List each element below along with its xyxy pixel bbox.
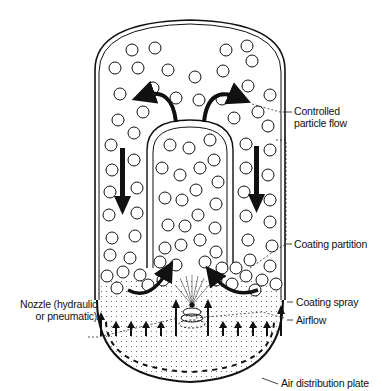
- label-line-2: particle flow: [294, 117, 347, 129]
- label-controlled-particle-flow: Controlled particle flow: [294, 105, 347, 129]
- label-line-1: Controlled: [294, 105, 347, 117]
- label-coating-partition: Coating partition: [294, 238, 367, 250]
- label-air-distribution-plate: Air distribution plate: [281, 377, 369, 389]
- label-coating-spray: Coating spray: [296, 296, 358, 308]
- label-airflow: Airflow: [296, 314, 326, 326]
- label-line-1: Nozzle (hydraulic: [20, 298, 97, 310]
- label-line-2: or pneumatic): [20, 310, 97, 322]
- label-nozzle: Nozzle (hydraulic or pneumatic): [20, 298, 97, 322]
- wurster-coater-diagram: [0, 0, 382, 391]
